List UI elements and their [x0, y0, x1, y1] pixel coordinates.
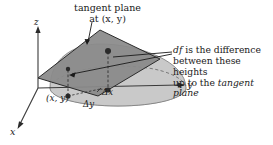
- plane-point-left-dot: [66, 67, 70, 71]
- df-annotation: df is the difference between these heigh…: [173, 45, 273, 99]
- axis-x-arrowhead: [18, 121, 24, 129]
- plane-point-right-dot: [105, 48, 111, 54]
- axis-x-line: [20, 88, 38, 124]
- title-line-2: at (x, y): [60, 13, 155, 24]
- axis-z-arrowhead: [35, 26, 40, 33]
- point-label-xy: (x, y): [46, 93, 69, 104]
- annotation-line-2: between these heights: [173, 56, 273, 78]
- df-symbol: df: [173, 44, 182, 55]
- tangent-plane-emphasis: tangent plane: [173, 77, 254, 99]
- axis-label-x: x: [10, 126, 15, 137]
- title-line-1: tangent plane: [60, 2, 155, 13]
- axis-label-y: y: [187, 79, 192, 90]
- increment-label-delta-x: Δx: [102, 87, 113, 97]
- tangent-plane-figure: tangent plane at (x, y) df is the differ…: [0, 0, 273, 145]
- axis-label-z: z: [34, 17, 38, 27]
- increment-label-delta-y: Δy: [83, 99, 94, 109]
- tangent-plane-title: tangent plane at (x, y): [60, 2, 155, 24]
